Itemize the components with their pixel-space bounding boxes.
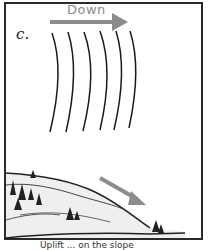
wave-lines bbox=[50, 31, 136, 132]
arrow-label: Down bbox=[67, 2, 106, 17]
hillside-landscape bbox=[6, 170, 185, 238]
panel-label: c. bbox=[16, 25, 29, 43]
caption: Uplift ... on the slope bbox=[40, 240, 134, 250]
